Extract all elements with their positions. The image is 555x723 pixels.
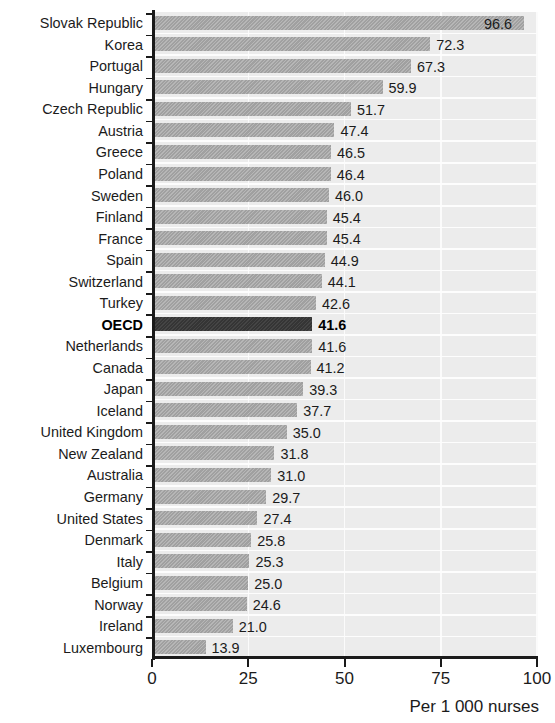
row-separator — [152, 248, 537, 250]
x-axis-tick-label: 50 — [335, 670, 354, 688]
category-label: Spain — [0, 253, 143, 268]
row-separator — [152, 463, 537, 465]
row-separator — [152, 614, 537, 616]
bar — [152, 339, 312, 353]
bar-value-label: 25.3 — [255, 555, 283, 569]
category-label: Japan — [0, 382, 143, 397]
category-label: Switzerland — [0, 275, 143, 290]
row-separator — [152, 399, 537, 401]
row-separator — [152, 76, 537, 78]
category-label: Germany — [0, 490, 143, 505]
row-separator — [152, 506, 537, 508]
category-label: Poland — [0, 167, 143, 182]
bar — [152, 597, 247, 611]
bar-value-label: 29.7 — [272, 491, 300, 505]
row-separator — [152, 377, 537, 379]
bar — [152, 80, 383, 94]
category-label: Denmark — [0, 533, 143, 548]
category-label: Belgium — [0, 576, 143, 591]
row-separator — [152, 593, 537, 595]
bar — [152, 403, 297, 417]
bar — [152, 274, 322, 288]
x-axis-tick — [536, 659, 538, 667]
bar-value-label: 31.0 — [277, 469, 305, 483]
row-separator — [152, 227, 537, 229]
row-separator — [152, 140, 537, 142]
category-label: New Zealand — [0, 447, 143, 462]
x-axis-tick-label: 75 — [431, 670, 450, 688]
bar-value-label: 46.5 — [337, 146, 365, 160]
category-label: Korea — [0, 38, 143, 53]
category-label: Czech Republic — [0, 102, 143, 117]
category-label: Turkey — [0, 296, 143, 311]
x-axis-tick-label: 0 — [147, 670, 156, 688]
row-separator — [152, 334, 537, 336]
category-label: Netherlands — [0, 339, 143, 354]
row-separator — [152, 205, 537, 207]
x-axis-tick-label: 100 — [523, 670, 551, 688]
row-separator — [152, 356, 537, 358]
category-label: United States — [0, 512, 143, 527]
bar-value-label: 39.3 — [309, 383, 337, 397]
bar — [152, 296, 316, 310]
bar — [152, 490, 266, 504]
bar-value-label: 13.9 — [212, 641, 240, 655]
bar-value-label: 59.9 — [389, 81, 417, 95]
bar-value-label: 41.6 — [318, 318, 346, 332]
bar-value-label: 35.0 — [293, 426, 321, 440]
row-separator — [152, 442, 537, 444]
row-separator — [152, 420, 537, 422]
category-label: Iceland — [0, 404, 143, 419]
row-separator — [152, 162, 537, 164]
horizontal-bar-chart: Slovak RepublicKoreaPortugalHungaryCzech… — [0, 0, 555, 723]
bar-value-label: 21.0 — [239, 620, 267, 634]
bar — [152, 145, 331, 159]
category-label: OECD — [0, 318, 143, 333]
bar-value-label: 42.6 — [322, 297, 350, 311]
row-separator — [152, 550, 537, 552]
row-separator — [152, 54, 537, 56]
bar-value-label: 45.4 — [333, 232, 361, 246]
category-label: Hungary — [0, 81, 143, 96]
bar-value-label: 51.7 — [357, 103, 385, 117]
bar — [152, 253, 325, 267]
row-separator — [152, 636, 537, 638]
category-label: Ireland — [0, 619, 143, 634]
bar — [152, 59, 411, 73]
bar — [152, 533, 251, 547]
bar — [152, 188, 329, 202]
x-axis-tick — [151, 659, 153, 667]
bar-value-label: 41.2 — [317, 361, 345, 375]
bar-value-label: 72.3 — [436, 38, 464, 52]
bar — [152, 167, 331, 181]
bar — [152, 382, 303, 396]
category-label: Italy — [0, 555, 143, 570]
bar-value-label: 67.3 — [417, 60, 445, 74]
chart-title-cropped — [0, 0, 555, 9]
bar — [152, 16, 524, 30]
bar-value-label: 47.4 — [340, 124, 368, 138]
bar — [152, 360, 311, 374]
bar-value-label: 44.1 — [328, 275, 356, 289]
category-label: Austria — [0, 124, 143, 139]
bar-value-label: 45.4 — [333, 211, 361, 225]
bar-value-label: 24.6 — [253, 598, 281, 612]
row-separator — [152, 270, 537, 272]
category-label: Norway — [0, 598, 143, 613]
bar — [152, 317, 312, 331]
bar-value-label: 25.0 — [254, 577, 282, 591]
row-separator — [152, 119, 537, 121]
category-label: United Kingdom — [0, 425, 143, 440]
row-separator — [152, 313, 537, 315]
bar — [152, 640, 206, 654]
category-label: Luxembourg — [0, 641, 143, 656]
x-axis-tick — [247, 659, 249, 667]
bar — [152, 446, 274, 460]
category-label: Portugal — [0, 59, 143, 74]
y-axis-line — [152, 10, 155, 660]
bar-value-label: 37.7 — [303, 404, 331, 418]
row-separator — [152, 571, 537, 573]
category-label: Finland — [0, 210, 143, 225]
x-axis-tick — [440, 659, 442, 667]
bar — [152, 619, 233, 633]
